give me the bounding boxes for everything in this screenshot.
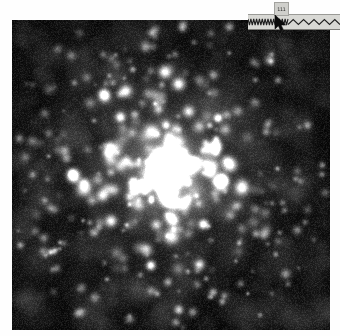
waveform-trace-icon <box>248 15 340 29</box>
star-field-image[interactable] <box>12 20 330 330</box>
app-root: 111 <box>0 0 340 336</box>
value-readout-text: 111 <box>277 7 285 12</box>
waveform-strip[interactable] <box>248 14 340 30</box>
value-readout-tooltip: 111 <box>274 2 289 16</box>
image-viewport[interactable] <box>12 20 330 330</box>
